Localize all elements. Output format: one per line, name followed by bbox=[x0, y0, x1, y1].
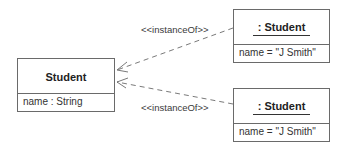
object-box-student-2[interactable]: : Student name = "J Smith" bbox=[233, 88, 330, 142]
class-box-student[interactable]: Student name : String bbox=[17, 58, 115, 112]
class-name: Student bbox=[18, 59, 114, 95]
object-name-text: : Student bbox=[253, 100, 311, 115]
class-name-text: Student bbox=[46, 71, 87, 83]
instanceof-connector-bottom bbox=[117, 82, 233, 104]
instanceof-label-bottom: <<instanceOf>> bbox=[141, 102, 209, 113]
object-box-student-1[interactable]: : Student name = "J Smith" bbox=[233, 9, 330, 63]
object-name: : Student bbox=[234, 89, 329, 125]
object-name-text: : Student bbox=[253, 21, 311, 36]
instanceof-label-top: <<instanceOf>> bbox=[141, 24, 209, 35]
object-attribute: name = "J Smith" bbox=[234, 123, 329, 141]
object-name: : Student bbox=[234, 10, 329, 46]
open-arrowhead-icon bbox=[117, 62, 128, 72]
object-attribute: name = "J Smith" bbox=[234, 44, 329, 62]
class-attribute: name : String bbox=[18, 93, 114, 111]
